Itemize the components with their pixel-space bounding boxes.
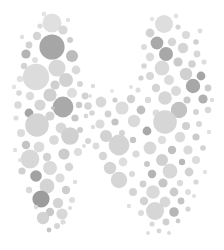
mosaic-circle <box>21 150 40 169</box>
mosaic-circle <box>164 75 174 85</box>
mosaic-circle <box>182 31 190 39</box>
mosaic-circle <box>32 190 49 207</box>
mosaic-circle <box>84 114 89 119</box>
mosaic-circle <box>56 208 67 219</box>
mosaic-circle <box>148 170 156 178</box>
mosaic-circle <box>77 81 83 87</box>
mosaic-circle <box>144 161 150 167</box>
mosaic-circle <box>53 198 63 208</box>
mosaic-circle <box>72 66 81 75</box>
mosaic-circle <box>32 57 38 63</box>
mosaic-circle <box>170 188 179 197</box>
mosaic-circle <box>175 24 180 29</box>
mosaic-circle <box>150 17 154 21</box>
mosaic-circle <box>192 156 200 164</box>
mosaic-circle <box>74 148 82 156</box>
mosaic-circle <box>169 207 179 217</box>
mosaic-circle <box>138 75 143 80</box>
mosaic-circle <box>34 142 45 153</box>
mosaic-circle <box>67 88 77 98</box>
mosaic-circle <box>140 181 147 188</box>
mosaic-circle <box>66 18 70 22</box>
mosaic-circle <box>13 115 18 120</box>
mosaic-circle <box>149 221 154 226</box>
mosaic-circle <box>205 107 211 113</box>
mosaic-circle <box>168 38 176 46</box>
mosaic-circle <box>163 219 170 226</box>
mosaic-circle <box>91 84 95 88</box>
mosaic-circle <box>157 229 162 234</box>
mosaic-circle <box>145 97 151 103</box>
mosaic-circle <box>129 188 137 196</box>
mosaic-circle <box>59 73 73 87</box>
mosaic-circle <box>143 127 152 136</box>
mosaic-circle <box>43 161 57 175</box>
mosaic-circle <box>178 43 188 53</box>
mosaic-circle <box>173 57 182 66</box>
mosaic-circle <box>89 110 95 116</box>
mosaic-circle <box>26 187 32 193</box>
mosaic-circle <box>18 167 25 174</box>
mosaic-circle <box>30 170 42 182</box>
mosaic-circle <box>135 87 140 92</box>
mosaic-circle <box>71 114 78 121</box>
mosaic-circle <box>34 205 38 209</box>
mosaic-circle <box>85 138 91 144</box>
mosaic-circle <box>68 206 72 210</box>
mosaic-circle <box>183 96 190 103</box>
mosaic-circle <box>33 32 41 40</box>
mosaic-circle <box>17 76 23 82</box>
mosaic-circle <box>153 110 177 134</box>
mosaic-circle <box>203 170 207 174</box>
mosaic-circle <box>127 95 135 103</box>
mosaic-circle <box>23 64 49 90</box>
mosaic-circle <box>60 219 65 224</box>
mosaic-circle <box>171 86 181 96</box>
mosaic-circle <box>84 102 92 110</box>
mosaic-circle <box>22 141 30 149</box>
mosaic-circle <box>152 84 160 92</box>
mosaic-circle <box>207 130 211 134</box>
mosaic-circle <box>129 171 135 177</box>
mosaic-circle <box>129 85 133 89</box>
mosaic-circle <box>155 61 170 76</box>
mosaic-circle <box>146 202 164 220</box>
mosaic-circle <box>58 148 69 159</box>
mosaic-circle <box>65 163 73 171</box>
mosaic-circle <box>16 90 22 96</box>
mosaic-circle <box>14 101 22 109</box>
mosaic-circle <box>176 219 181 224</box>
mosaic-circle <box>200 145 206 151</box>
mosaic-circle <box>158 178 167 187</box>
mosaic-circle <box>194 51 201 58</box>
mosaic-circle <box>185 189 191 195</box>
mosaic-circle <box>180 68 192 80</box>
mosaic-circle <box>156 154 168 166</box>
mosaic-circle <box>50 80 59 89</box>
mosaic-circle <box>205 85 212 92</box>
mosaic-circle <box>138 210 144 216</box>
mosaic-circle <box>155 15 173 33</box>
mosaic-circle <box>54 223 60 229</box>
mosaic-circle <box>163 164 178 179</box>
mosaic-circle <box>168 146 176 154</box>
mosaic-circle <box>193 109 199 115</box>
mosaic-circle <box>69 197 75 203</box>
mosaic-circle <box>174 14 179 19</box>
mosaic-circle <box>197 72 206 81</box>
mosaic-circle <box>49 135 59 145</box>
mosaic-circle <box>141 63 147 69</box>
mosaic-circle <box>111 172 127 188</box>
mosaic-circle <box>39 34 64 59</box>
mosaic-circle <box>141 44 147 50</box>
mosaic-circle <box>82 93 89 100</box>
mosaic-circle <box>198 29 203 34</box>
mosaic-circle <box>146 231 150 235</box>
mosaic-circle <box>183 145 192 154</box>
mosaic-circle <box>37 23 42 28</box>
mosaic-circle <box>210 98 214 102</box>
mosaic-circle <box>58 25 67 34</box>
mosaic-circle <box>192 133 199 140</box>
mosaic-circle <box>109 135 130 156</box>
mosaic-circle <box>119 158 128 167</box>
